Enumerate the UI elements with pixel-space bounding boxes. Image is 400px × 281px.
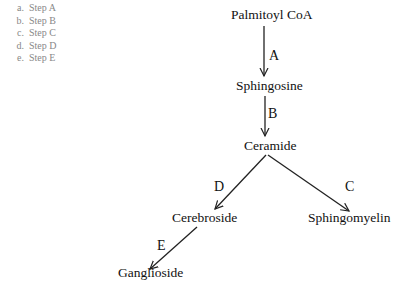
node-palmitoyl-coa: Palmitoyl CoA xyxy=(231,7,312,23)
node-cerebroside: Cerebroside xyxy=(172,210,237,226)
node-ganglioside: Ganglioside xyxy=(118,265,183,281)
node-sphingosine: Sphingosine xyxy=(236,78,303,94)
edge-label-e: E xyxy=(157,238,166,254)
arrow-c xyxy=(268,155,349,211)
edge-label-b: B xyxy=(268,106,277,122)
edge-label-a: A xyxy=(269,48,279,64)
edge-label-c: C xyxy=(345,179,354,195)
node-sphingomyelin: Sphingomyelin xyxy=(308,210,391,226)
edge-label-d: D xyxy=(214,179,224,195)
node-ceramide: Ceramide xyxy=(244,138,296,154)
